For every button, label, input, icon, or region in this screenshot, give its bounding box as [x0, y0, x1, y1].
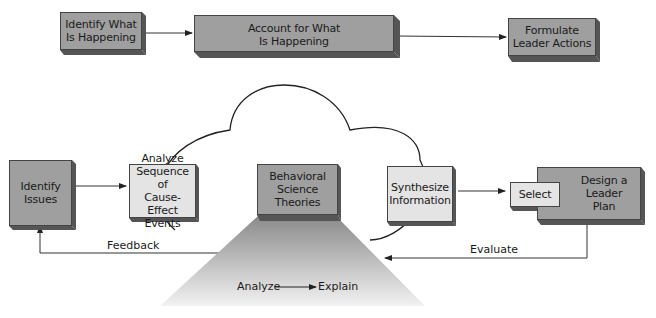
feedback-label: Feedback: [107, 239, 159, 252]
analyze-sequence-box: Analyze Sequence of Cause-Effect Events: [129, 164, 196, 218]
identify-issues-box: Identify Issues: [9, 160, 72, 226]
account-for-label: Account for What Is Happening: [248, 22, 340, 48]
analyze-label: Analyze: [237, 280, 280, 293]
explain-label: Explain: [318, 280, 358, 293]
synthesize-box: Synthesize Information: [387, 166, 453, 222]
identify-what-box: Identify What Is Happening: [60, 12, 142, 50]
identify-what-label: Identify What Is Happening: [65, 18, 136, 44]
analysis-trapezoid: [160, 216, 425, 306]
account-for-box: Account for What Is Happening: [194, 15, 394, 52]
synthesize-label: Synthesize Information: [389, 181, 450, 207]
formulate-box: Formulate Leader Actions: [508, 18, 596, 56]
evaluate-label: Evaluate: [470, 243, 518, 256]
behavioral-science-label: Behavioral Science Theories: [269, 170, 326, 209]
behavioral-science-box: Behavioral Science Theories: [257, 164, 338, 215]
select-box: Select: [510, 182, 560, 207]
select-label: Select: [519, 188, 552, 201]
design-plan-label: Design a Leader Plan: [581, 174, 628, 213]
formulate-label: Formulate Leader Actions: [513, 24, 592, 50]
identify-issues-label: Identify Issues: [21, 180, 61, 206]
analyze-sequence-label: Analyze Sequence of Cause-Effect Events: [130, 152, 195, 230]
